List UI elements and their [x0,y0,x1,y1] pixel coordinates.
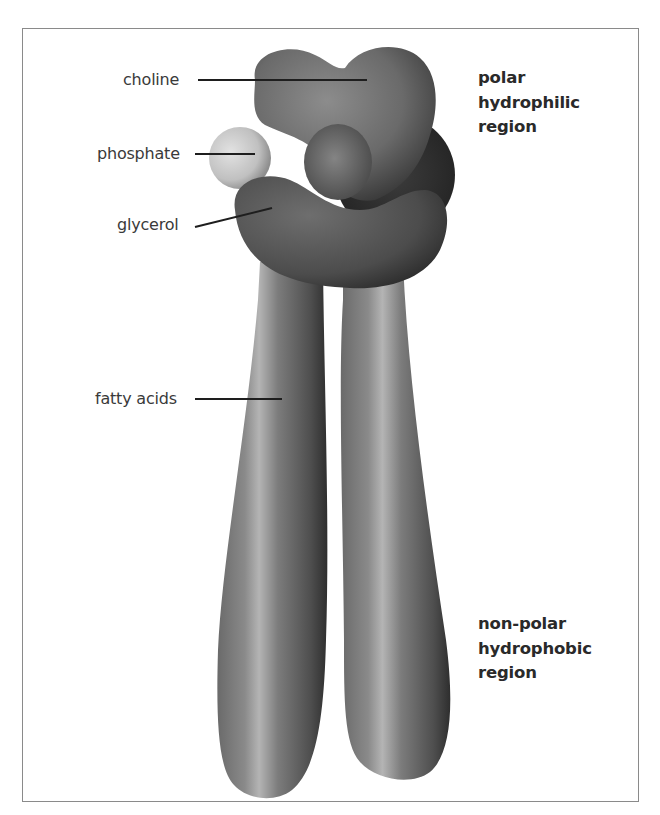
region-nonpolar-line-1: non-polar [478,612,592,637]
region-polar-line-3: region [478,115,580,140]
fatty-acid-tail-left [217,262,327,798]
linker-blob [304,124,372,200]
region-polar-line-1: polar [478,66,580,91]
region-polar-line-2: hydrophilic [478,91,580,116]
region-label-polar-hydrophilic: polar hydrophilic region [478,66,580,140]
fatty-acid-tails [217,262,450,798]
region-nonpolar-line-3: region [478,661,592,686]
label-choline: choline [123,71,179,89]
region-nonpolar-line-2: hydrophobic [478,637,592,662]
label-phosphate: phosphate [97,145,180,163]
region-label-nonpolar-hydrophobic: non-polar hydrophobic region [478,612,592,686]
label-glycerol: glycerol [117,216,179,234]
label-fatty-acids: fatty acids [95,390,177,408]
fatty-acid-tail-right [341,262,450,780]
head-group [209,47,455,288]
